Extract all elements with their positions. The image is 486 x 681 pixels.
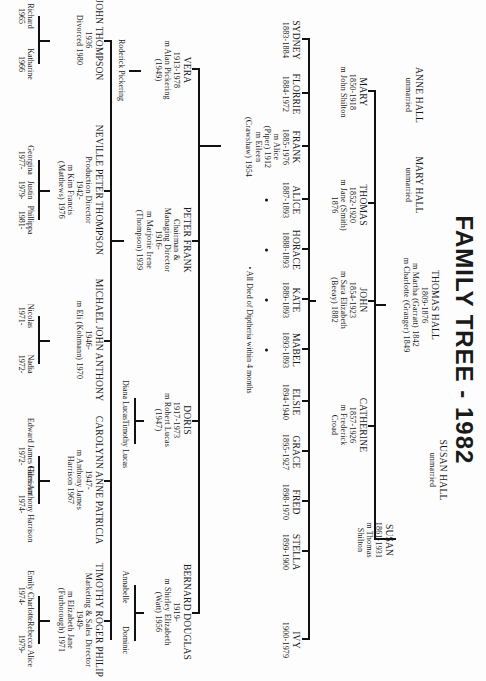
person-roderick-pickering: Roderick Pickering [117,39,126,101]
person-catherine: CATHERINE 1857-1926 m Frederick Croad [330,398,368,453]
connector-line [198,68,200,613]
person-gen3: SYDNEY1883-1884 [281,20,301,60]
person-diana-lucas: Diana Lucas [121,380,130,420]
person-peter-frank: PETER FRANK Chairman & Managing Director… [135,207,192,273]
person-gen3: GRACE1895-1927 [281,434,301,470]
connector-line [104,40,112,42]
person-susan-hall: SUSAN HALL unmarried [428,440,448,501]
person-gen3: FRANK1885-1976m Alice(Piper) 1912m Eilee… [244,117,301,177]
person-gen3: IVY1900-1979 [281,622,301,658]
diphtheria-marker [265,249,268,252]
person-thomas-hall: THOMAS HALL 1809-1876 m Martha (Garratt)… [402,258,440,353]
connector-line [302,92,310,94]
connector-line [368,202,376,204]
connector-line [104,190,112,192]
person-child: Richard1965 [17,3,35,28]
connector-line [104,480,112,482]
connector-line [192,68,200,70]
person-mary: MARY 1850-1918 m John Shilton [339,66,368,117]
connector-line [134,398,136,444]
person-gen3: STELLA1899-1900 [281,534,301,571]
person-child: Georgina1977- [17,145,35,175]
connector-line [302,145,310,147]
person-dominic: Dominic [121,626,130,654]
person-bernard-douglas: BERNARD DOUGLAS 1919- m Shirley Elizabet… [154,564,192,660]
person-child: Justin1979- [17,181,35,200]
connector-line [302,400,310,402]
connector-line [302,348,310,350]
connector-line [198,145,221,147]
person-child: Emily Charlotte1974- [17,570,35,621]
connector-line [110,240,124,242]
connector-line [302,298,310,300]
person-child: Nicolas1971- [17,304,35,328]
connector-line [134,585,136,641]
person-john: JOHN 1854-1923 m Sara Elizabeth (Beeay) … [330,271,368,329]
person-gen3: HORACE1888-1893 [281,230,301,270]
person-gen3: FRED1898-1970 [281,484,301,520]
diphtheria-marker [265,299,268,302]
connector-line [40,40,50,42]
connector-line [40,480,50,482]
connector-line [38,160,40,220]
connector-line [302,550,310,552]
page-title: FAMILY TREE - 1982 [450,216,478,465]
person-gen5: MICHAEL JOHN ANTHONY1946-m Eli (Kohmann)… [75,279,104,401]
connector-line [104,340,112,342]
person-child: Rebecca Alice1979- [17,621,35,667]
connector-line [302,638,310,640]
connector-line [302,38,310,40]
connector-line [40,620,50,622]
connector-line [302,198,310,200]
person-annabelle: Annabelle [121,571,130,604]
connector-line [129,70,141,72]
diphtheria-marker [265,349,268,352]
person-gen3: ELSIE1894-1940 [281,384,301,420]
connector-line [38,316,40,364]
family-tree-document: FAMILY TREE - 1982 ANNE HALL unmarried M… [0,0,486,681]
person-gen3: FLORRIE1884-1972 [281,74,301,115]
person-timothy-lucas: Timothy Lucas [121,420,130,468]
connector-line [38,16,40,64]
person-anne-hall: ANNE HALL unmarried [404,67,424,123]
person-child: Phillippa1981- [17,206,35,235]
connector-line [302,248,310,250]
connector-line [38,456,40,504]
person-child: Giles Anthony Harrison1974- [17,466,35,542]
connector-line [192,420,200,422]
connector-line [104,620,112,622]
person-gen5: NEVILLE PETER THOMPSONProduction Directo… [56,125,104,255]
person-gen3: MABEL1893-1893 [281,332,301,368]
connector-line [302,500,310,502]
connector-line [192,240,200,242]
person-gen5: CAROLYNN ANNE PATRICIA1947-m Anthony Jam… [66,416,104,545]
diphtheria-marker [265,199,268,202]
person-doris: DORIS 1917-1973 m Robert Lucas (1947) [154,393,192,447]
connector-line [38,596,40,644]
connector-line [375,90,377,540]
connector-line [40,190,50,192]
connector-line [40,340,50,342]
connector-line [368,90,376,92]
person-mary-hall: MARY HALL unmarried [404,156,424,213]
person-gen5: JOHN THOMPSON1936Divorced 1980 [75,0,104,81]
person-child: Nadia1972- [17,354,35,373]
person-gen5: TIMOTHY ROGER PHILIPMarketing & Sales Di… [56,563,104,677]
person-gen3: KATE1889-1893 [281,282,301,318]
person-susan: SUSAN 1861-1931 m Thomas Shilton [356,522,394,558]
person-vera: VERA 1913-1978 m Alan Pickering (1949) [154,40,192,99]
connector-line [308,38,310,638]
person-thomas: THOMAS 1852-1920 m Jane (Smith) 1876 [330,179,368,231]
connector-line [192,612,200,614]
footnote-diphtheria: • All Died of Diptheria within 4 months [245,266,254,393]
connector-line [368,425,376,427]
connector-line [368,300,376,302]
connector-line [302,450,310,452]
person-gen3: ALICE1887-1893 [281,182,301,218]
person-child: Katharine1966 [17,48,35,80]
